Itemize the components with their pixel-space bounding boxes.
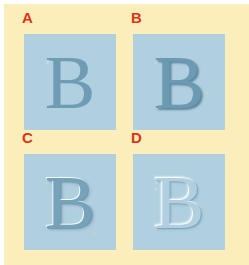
panel-a-swatch: B [24,34,116,130]
panel-b-swatch: B [133,34,225,130]
panel-c: C B [20,130,116,254]
panel-a: A B [20,10,116,134]
panel-b: B B [129,10,229,134]
panel-d-swatch: B [133,154,225,250]
panel-label-c: C [22,130,33,145]
panel-c-swatch: B [24,154,116,250]
panel-b-glyph: B [133,44,225,120]
panel-label-b: B [131,10,142,25]
figure-background: A B B B C B D B [4,4,249,265]
panel-label-a: A [22,10,33,25]
figure-canvas: A B B B C B D B [0,0,249,265]
panel-c-glyph: B [24,164,116,240]
panel-d-glyph: B [133,164,225,240]
panel-a-glyph: B [24,44,116,120]
panel-label-d: D [131,130,142,145]
panel-d: D B [129,130,229,254]
